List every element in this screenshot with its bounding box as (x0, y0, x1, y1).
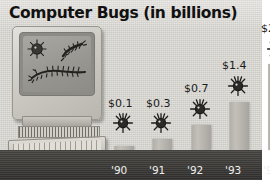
caterpillar-bug-icon (61, 41, 87, 61)
bar-1991 (152, 139, 172, 150)
bug-icon-1991 (150, 112, 172, 134)
bar-1992 (191, 125, 211, 150)
monitor-screen (23, 36, 91, 92)
page-title: Computer Bugs (in billions) (9, 4, 237, 22)
bar-value-label-1992: $0.7 (184, 82, 209, 95)
bar-chart: $0.1 $0.3 $0.7 (106, 26, 262, 150)
bug-icon-1990 (112, 112, 134, 134)
monitor-housing (12, 26, 102, 120)
bar-1993 (229, 102, 249, 150)
bar-1994 (268, 64, 270, 150)
axis-baseline-band: '90 '91 '92 '93 '94 (0, 150, 262, 180)
infographic-canvas: Computer Bugs (in billions) (0, 0, 270, 186)
spiky-bug-icon (28, 40, 47, 59)
axis-label-1993: '93 (225, 164, 241, 176)
axis-label-1991: '91 (149, 164, 165, 176)
desktop-computer-illustration (8, 26, 106, 162)
worm-bug-icon (28, 66, 85, 83)
axis-label-1992: '92 (187, 164, 203, 176)
bug-icon-1993 (227, 75, 249, 97)
baseline-band-grain (0, 150, 262, 180)
bug-icon-1992 (189, 98, 211, 120)
bar-value-label-1991: $0.3 (146, 97, 171, 110)
bar-value-label-1993: $1.4 (222, 59, 247, 72)
axis-label-1990: '90 (111, 164, 127, 176)
screen-doodles (23, 36, 91, 92)
bug-icon-1994 (266, 38, 270, 60)
bar-value-label-1994: $2.7 (261, 22, 270, 35)
monitor-bezel (19, 32, 95, 96)
axis-label-1994: '94 (263, 164, 270, 176)
bar-value-label-1990: $0.1 (108, 97, 133, 110)
